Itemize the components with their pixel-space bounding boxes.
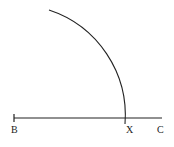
label-c: C xyxy=(157,124,164,135)
arc-from-b xyxy=(49,10,125,124)
label-x: X xyxy=(126,124,134,135)
label-b: B xyxy=(11,124,18,135)
construction-diagram: B X C xyxy=(0,0,174,147)
